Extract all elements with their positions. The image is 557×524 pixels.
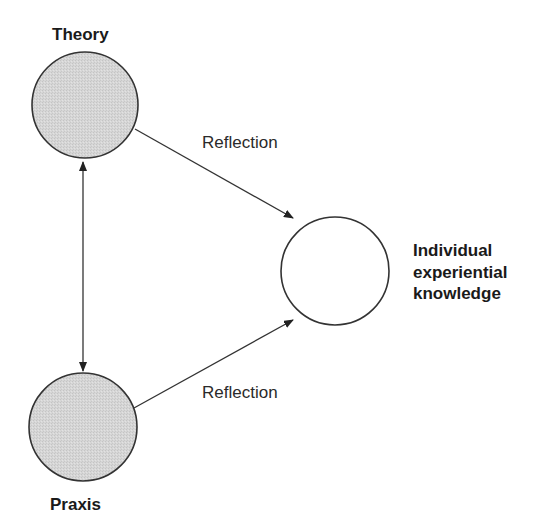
praxis-label: Praxis bbox=[50, 495, 101, 515]
knowledge-label-line-3: knowledge bbox=[413, 283, 508, 305]
bottom-reflection-label: Reflection bbox=[202, 383, 278, 403]
knowledge-label: Individual experiential knowledge bbox=[413, 240, 508, 305]
theory-node bbox=[32, 52, 138, 158]
knowledge-node bbox=[281, 217, 389, 325]
knowledge-label-line-1: Individual bbox=[413, 240, 508, 262]
theory-label: Theory bbox=[52, 25, 109, 45]
praxis-node bbox=[29, 373, 137, 481]
knowledge-label-line-2: experiential bbox=[413, 262, 508, 284]
top-reflection-label: Reflection bbox=[202, 133, 278, 153]
